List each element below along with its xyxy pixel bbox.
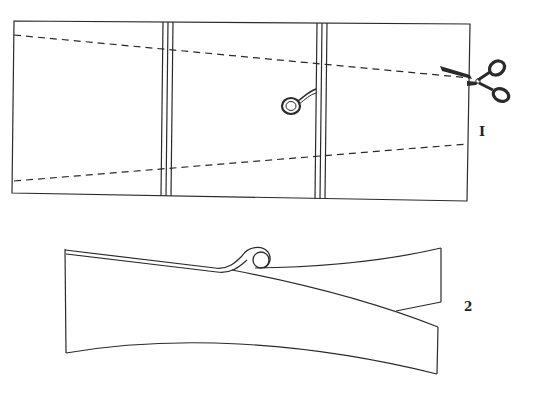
- seam-left: [161, 22, 173, 196]
- curl-icon: [282, 89, 316, 114]
- step-label-1: I: [479, 124, 485, 139]
- panel-2-band: [65, 247, 441, 374]
- cut-line-top: [14, 35, 470, 78]
- curl-icon: [242, 247, 270, 268]
- scissors-icon: [440, 58, 511, 104]
- panel-1-band: [12, 21, 511, 201]
- diagram-canvas: I 2: [0, 0, 547, 399]
- step-label-2: 2: [464, 300, 472, 314]
- cut-line-bottom: [14, 144, 467, 181]
- seam-right: [315, 23, 327, 199]
